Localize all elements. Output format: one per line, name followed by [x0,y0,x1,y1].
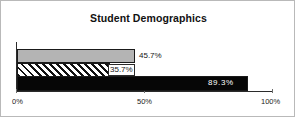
bar-series-2 [17,63,110,77]
bar-value-label-2: 35.7% [108,64,135,76]
plot-area: 0% 50% 100% 45.7% 35.7% 89.3% [1,1,295,117]
x-axis-tick-100 [272,89,273,93]
bar-value-label-3: 89.3% [208,78,234,87]
chart-frame: Student Demographics 0% 50% 100% 45.7% 3… [0,0,295,117]
x-axis-label-100: 100% [261,97,280,106]
bar-series-1 [17,49,135,63]
x-axis-label-50: 50% [137,97,152,106]
x-axis-label-0: 0% [12,97,23,106]
bar-value-label-1: 45.7% [138,51,163,60]
